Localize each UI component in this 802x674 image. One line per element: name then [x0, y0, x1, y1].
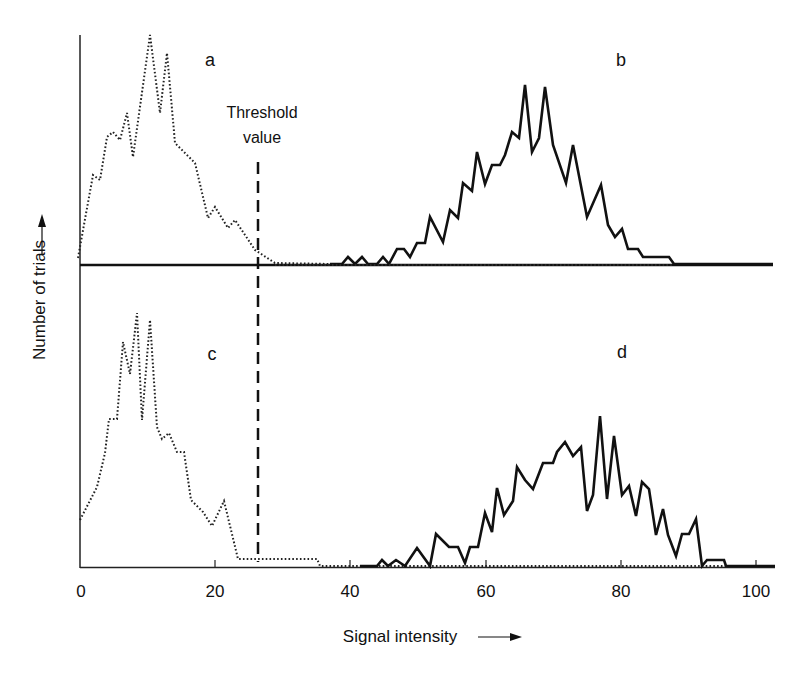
panel-label-c: c: [208, 344, 217, 364]
x-tick-label-0: 0: [76, 582, 85, 601]
x-axis-title: Signal intensity: [343, 627, 458, 646]
panel-label-d: d: [617, 342, 627, 362]
curve-c-dotted: [80, 313, 775, 566]
signal-detection-figure: Threshold value a b c d 0 20 40 60 80 10…: [0, 0, 802, 674]
x-tick-label-100: 100: [742, 582, 770, 601]
x-tick-label-60: 60: [477, 582, 496, 601]
x-tick-label-20: 20: [206, 582, 225, 601]
threshold-label-line1: Threshold: [226, 104, 297, 121]
panel-label-a: a: [205, 50, 216, 70]
curve-d-solid: [360, 416, 775, 566]
x-tick-label-80: 80: [612, 582, 631, 601]
x-axis-arrow-icon: [478, 633, 522, 641]
x-tick-label-40: 40: [341, 582, 360, 601]
panel-label-b: b: [616, 50, 626, 70]
threshold-label-line2: value: [243, 129, 281, 146]
curve-b-solid: [330, 85, 773, 264]
y-axis-title: Number of trials: [30, 240, 49, 360]
